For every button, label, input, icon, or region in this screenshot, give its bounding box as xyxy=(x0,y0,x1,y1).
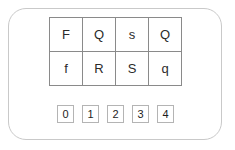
letter-grid: F Q s Q f R S q xyxy=(49,17,182,86)
table-row: F Q s Q xyxy=(50,18,182,52)
number-button-4[interactable]: 4 xyxy=(157,105,174,123)
grid-cell-r0c2[interactable]: s xyxy=(116,18,149,52)
number-button-3[interactable]: 3 xyxy=(132,105,149,123)
grid-cell-r1c3[interactable]: q xyxy=(149,52,182,86)
number-button-1[interactable]: 1 xyxy=(82,105,99,123)
number-button-row: 0 1 2 3 4 xyxy=(57,105,174,123)
card-panel: F Q s Q f R S q 0 1 2 3 4 xyxy=(8,8,222,140)
grid-cell-r0c1[interactable]: Q xyxy=(83,18,116,52)
number-button-2[interactable]: 2 xyxy=(107,105,124,123)
grid-cell-r1c0[interactable]: f xyxy=(50,52,83,86)
grid-cell-r0c0[interactable]: F xyxy=(50,18,83,52)
app-root: F Q s Q f R S q 0 1 2 3 4 xyxy=(0,0,235,150)
grid-cell-r0c3[interactable]: Q xyxy=(149,18,182,52)
table-row: f R S q xyxy=(50,52,182,86)
grid-cell-r1c2[interactable]: S xyxy=(116,52,149,86)
number-button-0[interactable]: 0 xyxy=(57,105,74,123)
grid-cell-r1c1[interactable]: R xyxy=(83,52,116,86)
